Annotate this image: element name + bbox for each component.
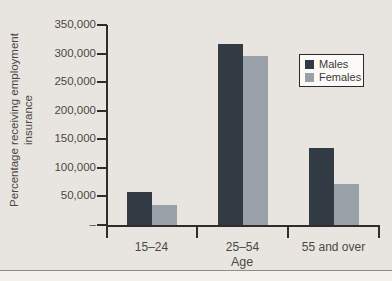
y-tick-label: 300,000 (34, 47, 96, 59)
y-tick-label: 200,000 (34, 104, 96, 116)
y-tick-label: 100,000 (34, 161, 96, 173)
y-tick-label: 250,000 (34, 75, 96, 87)
x-axis-line (106, 225, 379, 227)
legend-swatch-females (305, 73, 314, 82)
y-tick-mark (97, 224, 107, 226)
x-axis-title: Age (197, 255, 287, 269)
bar-females-3 (334, 184, 359, 225)
bar-males-3 (309, 148, 334, 225)
legend-swatch-males (305, 60, 314, 69)
legend-label-males: Males (319, 59, 348, 70)
x-tick-mark (378, 225, 380, 238)
y-axis-line (106, 25, 108, 238)
y-axis-title: Percentage receiving employment insuranc… (7, 14, 36, 226)
y-tick-label: 350,000 (34, 18, 96, 30)
y-tick-mark (97, 138, 107, 140)
y-tick-label: – (34, 218, 96, 230)
y-tick-label: 150,000 (34, 132, 96, 144)
chart-page: Percentage receiving employment insuranc… (0, 0, 392, 281)
y-tick-mark (97, 24, 107, 26)
y-tick-mark (97, 110, 107, 112)
x-tick-label: 55 and over (289, 240, 379, 254)
y-tick-mark (97, 167, 107, 169)
x-tick-mark (196, 225, 198, 238)
bar-females-1 (152, 205, 177, 225)
legend-item-males: Males (305, 58, 363, 71)
y-tick-label: 50,000 (34, 189, 96, 201)
bar-males-1 (127, 192, 152, 225)
bar-females-2 (243, 56, 268, 225)
x-tick-mark (287, 225, 289, 238)
legend: MalesFemales (299, 54, 364, 87)
y-tick-mark (97, 53, 107, 55)
x-tick-label: 25–54 (198, 240, 288, 254)
x-tick-label: 15–24 (107, 240, 197, 254)
y-tick-mark (97, 195, 107, 197)
legend-label-females: Females (319, 72, 361, 83)
y-tick-mark (97, 81, 107, 83)
y-axis-title-line1: Percentage receiving employment (7, 14, 21, 226)
page-margin-below-divider (0, 271, 392, 281)
bar-males-2 (218, 44, 243, 225)
legend-item-females: Females (305, 71, 363, 84)
